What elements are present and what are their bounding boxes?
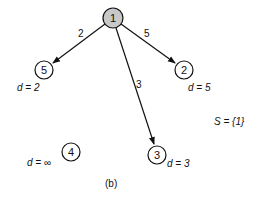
node-2-label: 2 [181, 64, 187, 76]
node-4: 4 [62, 143, 80, 161]
figure-caption: (b) [105, 179, 117, 189]
node-2: 2 [175, 61, 193, 79]
distance-node-5: d = 2 [17, 83, 40, 93]
graph-canvas: 2 5 3 1 5 2 3 4 [0, 0, 255, 200]
distance-node-2: d = 5 [188, 83, 211, 93]
node-1: 1 [103, 8, 123, 28]
node-5: 5 [35, 61, 53, 79]
distance-node-3: d = 3 [167, 159, 190, 169]
node-3: 3 [148, 146, 166, 164]
node-5-label: 5 [41, 64, 47, 76]
edge-1-to-3 [116, 28, 154, 144]
edge-weight-1-5: 2 [78, 28, 84, 39]
distance-node-4: d = ∞ [27, 158, 51, 168]
visited-set-label: S = {1} [214, 117, 244, 127]
edge-weight-1-2: 5 [144, 28, 150, 39]
node-1-label: 1 [110, 12, 116, 24]
node-3-label: 3 [154, 149, 160, 161]
node-4-label: 4 [68, 146, 74, 158]
edge-weight-1-3: 3 [136, 79, 142, 90]
